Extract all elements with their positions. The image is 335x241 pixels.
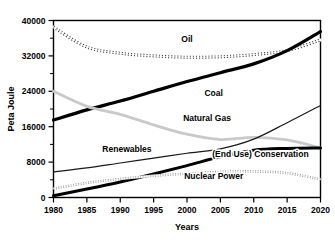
y-tick-label: 24000 xyxy=(22,86,46,96)
x-tick-label: 1995 xyxy=(144,205,163,215)
series-label-oil: Oil xyxy=(181,34,192,44)
y-tick-label: 8000 xyxy=(27,157,46,167)
series-line-coal xyxy=(54,32,321,121)
x-tick-label: 1980 xyxy=(44,205,63,215)
series-label-renewables: Renewables xyxy=(102,144,151,154)
x-tick-label: 1990 xyxy=(111,205,130,215)
x-axis-tick-labels: 198019851990199520002005201020152020 xyxy=(44,205,330,215)
line-chart: OilOilCoalCoalNatural GasNatural GasRene… xyxy=(0,0,335,241)
y-axis-tick-labels: 0800016000240003200040000 xyxy=(22,16,46,203)
series-label-coal: Coal xyxy=(204,88,222,98)
y-tick-label: 16000 xyxy=(22,122,46,132)
y-axis-title: Peta Joule xyxy=(6,86,16,131)
x-tick-label: 2010 xyxy=(244,205,263,215)
series-label-nuclear-power: Nuclear Power xyxy=(184,171,244,181)
y-tick-label: 0 xyxy=(41,193,46,203)
x-axis-ticks xyxy=(54,198,321,203)
x-tick-label: 2000 xyxy=(178,205,197,215)
x-axis-title: Years xyxy=(175,222,199,232)
series-label-natural-gas: Natural Gas xyxy=(183,113,231,123)
y-tick-label: 32000 xyxy=(22,51,46,61)
chart-container: OilOilCoalCoalNatural GasNatural GasRene… xyxy=(0,0,335,241)
y-tick-label: 40000 xyxy=(22,16,46,26)
x-tick-label: 2005 xyxy=(211,205,230,215)
series-label-end-use-conservation: (End Use) Conservation xyxy=(212,149,308,159)
x-tick-label: 2020 xyxy=(311,205,330,215)
x-tick-label: 1985 xyxy=(77,205,96,215)
x-tick-label: 2015 xyxy=(278,205,297,215)
